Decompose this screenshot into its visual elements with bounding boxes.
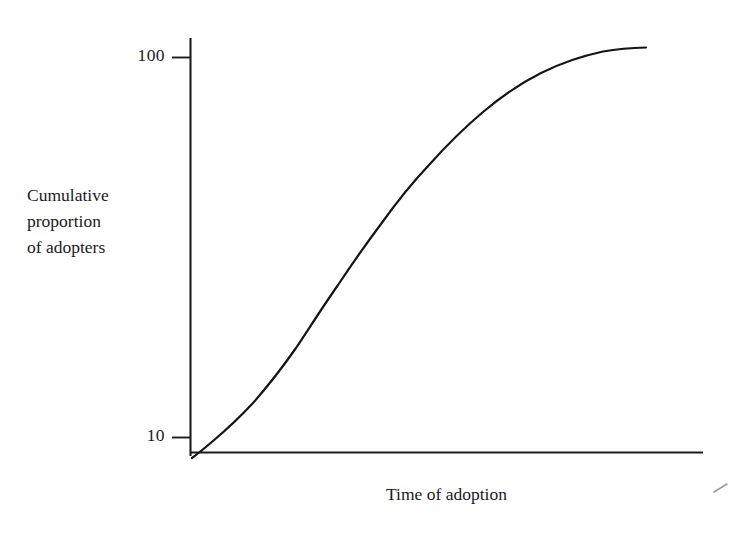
chart-plot-area bbox=[0, 0, 735, 533]
y-axis-title-line-3: of adopters bbox=[27, 234, 109, 260]
y-tick-label-100: 100 bbox=[138, 47, 165, 65]
scan-artifact-mark bbox=[714, 484, 727, 492]
y-axis-title: Cumulative proportion of adopters bbox=[27, 182, 109, 260]
x-axis-title: Time of adoption bbox=[190, 486, 703, 504]
y-tick-label-10: 10 bbox=[147, 427, 165, 445]
y-axis-title-line-1: Cumulative bbox=[27, 182, 109, 208]
y-axis-title-line-2: proportion bbox=[27, 208, 109, 234]
adoption-curve bbox=[192, 48, 646, 459]
chart-figure: 100 10 Cumulative proportion of adopters… bbox=[0, 0, 735, 533]
